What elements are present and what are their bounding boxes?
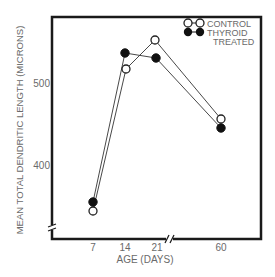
y-axis-break (48, 224, 56, 231)
x-tick-14: 14 (119, 242, 131, 253)
y-tick-500: 500 (33, 78, 50, 89)
treated-point-day21 (152, 54, 160, 62)
legend-treated-label-2: TREATED (213, 37, 255, 47)
legend-control-marker (184, 19, 192, 27)
control-point-day7 (89, 207, 97, 215)
x-tick-60: 60 (215, 242, 227, 253)
control-point-day60 (217, 115, 225, 123)
x-axis-title: AGE (DAYS) (116, 254, 173, 265)
y-tick-400: 400 (33, 160, 50, 171)
x-axis-break (165, 235, 174, 243)
control-point-day14 (122, 65, 130, 73)
plot-frame (52, 17, 261, 239)
y-axis-title: MEAN TOTAL DENDRITIC LENGTH (MICRONS) (14, 26, 25, 235)
legend-treated-marker (184, 28, 192, 36)
legend: CONTROL THYROID TREATED (184, 19, 255, 47)
chart: 500 400 7 14 21 60 AGE (DAYS) MEAN TOTAL… (0, 0, 275, 277)
treated-point-day14 (121, 49, 129, 57)
control-point-day21 (151, 36, 159, 44)
x-tick-7: 7 (90, 242, 96, 253)
control-line (93, 40, 221, 211)
treated-point-day7 (89, 198, 97, 206)
legend-treated-marker (196, 28, 204, 36)
legend-control-marker (196, 19, 204, 27)
x-tick-21: 21 (151, 242, 163, 253)
treated-point-day60 (217, 124, 225, 132)
